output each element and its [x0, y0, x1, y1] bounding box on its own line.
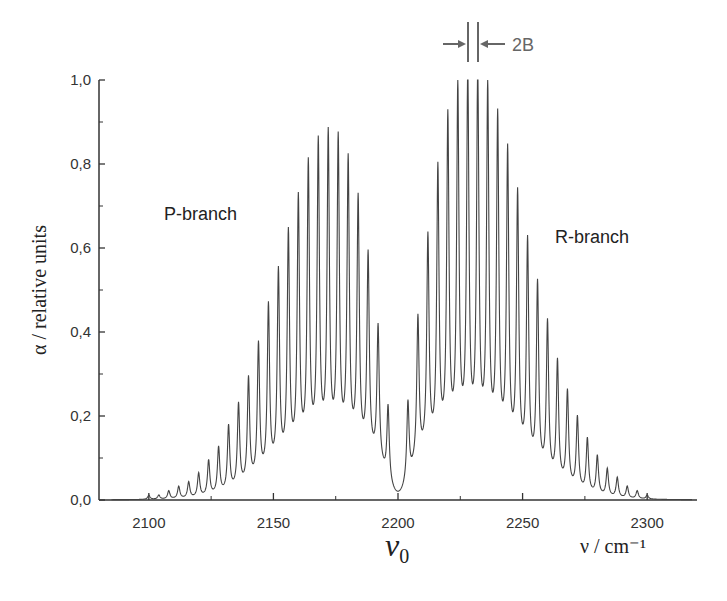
- axes: 0,00,20,40,60,81,021002150220022502300: [70, 71, 697, 531]
- y-axis-label: α / relative units: [28, 225, 50, 355]
- x-tick-label: 2100: [132, 514, 165, 531]
- spacing-annotation: [443, 22, 505, 62]
- y-tick-label: 0,6: [70, 239, 91, 256]
- x-tick-label: 2300: [630, 514, 663, 531]
- y-tick-label: 0,8: [70, 155, 91, 172]
- y-tick-label: 0,2: [70, 407, 91, 424]
- y-tick-label: 1,0: [70, 71, 91, 88]
- spectrum-line: [111, 80, 692, 500]
- x-tick-label: 2150: [257, 514, 290, 531]
- x-axis-label: ν / cm⁻¹: [580, 535, 646, 557]
- y-tick-label: 0,4: [70, 323, 91, 340]
- x-tick-label: 2250: [506, 514, 539, 531]
- arrowhead-left-icon: [480, 40, 488, 48]
- band-origin-label: ν0: [385, 527, 409, 567]
- y-tick-label: 0,0: [70, 491, 91, 508]
- band-origin-symbol: ν: [385, 527, 400, 563]
- arrowhead-right-icon: [458, 40, 466, 48]
- band-origin-subscript: 0: [399, 545, 409, 567]
- spacing-label: 2B: [512, 35, 534, 55]
- spectrum-figure: 0,00,20,40,60,81,021002150220022502300 P…: [0, 0, 727, 601]
- r-branch-label: R-branch: [555, 227, 629, 247]
- p-branch-label: P-branch: [164, 204, 237, 224]
- spectrum-chart: 0,00,20,40,60,81,021002150220022502300 P…: [0, 0, 727, 601]
